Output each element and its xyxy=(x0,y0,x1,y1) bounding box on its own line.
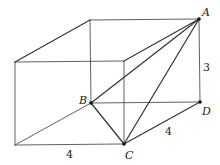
label-B: B xyxy=(78,94,87,107)
edge-AD xyxy=(199,19,200,102)
point-C xyxy=(122,142,126,146)
edge-top-left xyxy=(15,20,90,62)
label-A: A xyxy=(201,6,210,19)
cuboid-diagram: A B C D 3 4 4 xyxy=(0,0,220,165)
edge-top-back xyxy=(90,19,199,20)
label-C: C xyxy=(125,149,134,162)
edge-bottom-left xyxy=(15,103,91,145)
edge-bottom-front xyxy=(15,144,124,145)
point-D xyxy=(198,100,202,104)
point-A xyxy=(197,17,201,21)
edge-BD xyxy=(91,102,200,103)
edge-BC xyxy=(91,103,124,144)
edge-top-front xyxy=(15,61,124,62)
label-D: D xyxy=(201,105,211,118)
label-height-3: 3 xyxy=(203,61,210,74)
diagram-canvas: A B C D 3 4 4 xyxy=(0,0,220,165)
edge-CD xyxy=(124,102,200,144)
point-B xyxy=(89,101,93,105)
edge-vertical-back-left xyxy=(90,20,91,103)
edge-top-right xyxy=(124,19,199,61)
label-CD-4: 4 xyxy=(165,125,172,138)
edge-AC xyxy=(124,19,199,144)
label-width-4: 4 xyxy=(66,148,73,161)
